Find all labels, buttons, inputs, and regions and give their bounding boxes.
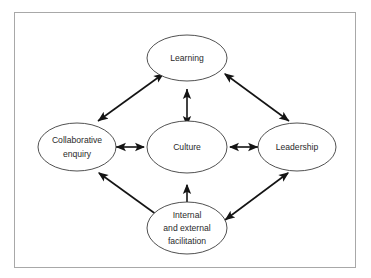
node-leadership[interactable]: Leadership [258,123,336,171]
node-internal-and-external-facilitation-label-line-3: facilitation [168,236,206,246]
node-collaborative-enquiry[interactable]: Collaborative enquiry [38,123,116,171]
node-learning-label-line-1: Learning [170,53,204,63]
connector-learning-collaborative-enquiry [98,74,163,121]
node-culture[interactable]: Culture [147,121,227,173]
node-culture-label-line-1: Culture [173,142,201,152]
node-internal-and-external-facilitation[interactable]: Internal and external facilitation [147,202,227,254]
concept-map-diagram: Learning Collaborative enquiry Culture L… [15,13,355,267]
connector-leadership-facilitation [225,173,288,220]
node-collaborative-enquiry-label-line-1: Collaborative [52,135,102,145]
node-collaborative-enquiry-label-line-2: enquiry [63,149,92,159]
node-internal-and-external-facilitation-label-line-2: and external [163,223,210,233]
connector-learning-leadership [225,74,289,121]
node-internal-and-external-facilitation-label-line-1: Internal [173,210,202,220]
node-learning[interactable]: Learning [147,35,227,81]
figure-root: Learning Collaborative enquiry Culture L… [0,0,371,278]
node-collaborative-enquiry-shape [38,123,116,171]
diagram-frame: Learning Collaborative enquiry Culture L… [14,12,356,268]
node-leadership-label-line-1: Leadership [276,142,319,152]
